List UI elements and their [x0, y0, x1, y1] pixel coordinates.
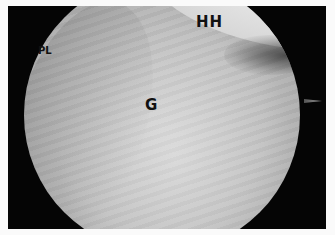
- label-g: G: [145, 98, 157, 113]
- label-pl: PL: [38, 46, 52, 56]
- shadow-region: [224, 35, 300, 75]
- posterior-labrum-region: [24, 6, 181, 229]
- image-frame: [8, 6, 326, 229]
- instrument-tip: [304, 99, 322, 103]
- arthroscope-field: [24, 6, 300, 229]
- label-hh: HH: [196, 15, 223, 30]
